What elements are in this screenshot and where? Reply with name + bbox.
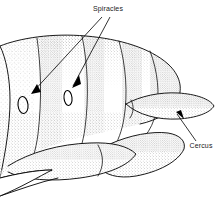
label-cercus: Cercus	[189, 142, 212, 149]
insect-abdomen-diagram: Spiracles Cercus	[0, 0, 221, 206]
figure-container: Spiracles Cercus	[0, 0, 221, 206]
label-spiracles: Spiracles	[93, 5, 123, 13]
